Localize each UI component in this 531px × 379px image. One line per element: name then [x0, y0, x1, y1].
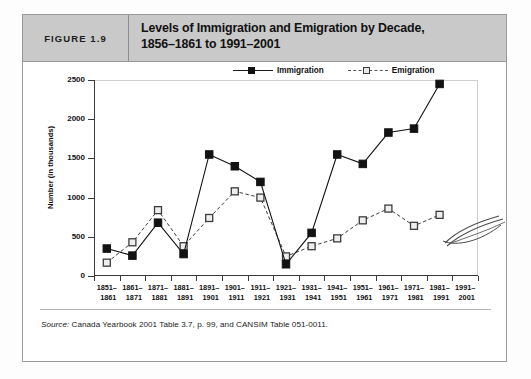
figure-number: FIGURE 1.9	[23, 15, 129, 61]
data-point-marker	[282, 260, 290, 268]
data-point-marker	[103, 245, 111, 253]
series-line	[107, 84, 440, 264]
data-point-marker	[410, 125, 418, 133]
data-point-marker	[206, 214, 213, 221]
data-point-marker	[155, 207, 162, 214]
figure-title: Levels of Immigration and Emigration by …	[129, 15, 506, 61]
source-text: Canada Yearbook 2001 Table 3.7, p. 99, a…	[69, 320, 328, 329]
data-point-marker	[385, 205, 392, 212]
data-point-marker	[103, 259, 110, 266]
data-point-marker	[257, 178, 265, 186]
source-prefix: Source:	[41, 320, 69, 329]
data-point-marker	[308, 229, 316, 237]
data-point-marker	[308, 243, 315, 250]
data-point-marker	[436, 80, 444, 88]
series-immigration	[103, 80, 443, 268]
data-point-marker	[231, 162, 239, 170]
data-point-marker	[154, 219, 162, 227]
source-divider	[40, 309, 491, 310]
pen-stroke-artifact	[437, 213, 507, 253]
figure-container: FIGURE 1.9 Levels of Immigration and Emi…	[22, 14, 507, 362]
data-point-marker	[257, 194, 264, 201]
data-point-marker	[129, 239, 136, 246]
data-point-marker	[359, 217, 366, 224]
data-point-marker	[334, 235, 341, 242]
series-canvas	[37, 68, 492, 303]
data-point-marker	[411, 222, 418, 229]
line-chart: Immigration Emigration Number (in thousa…	[37, 68, 492, 303]
figure-header: FIGURE 1.9 Levels of Immigration and Emi…	[23, 15, 506, 62]
figure-body: Immigration Emigration Number (in thousa…	[23, 62, 506, 363]
data-point-marker	[205, 151, 213, 159]
data-point-marker	[359, 160, 367, 168]
figure-title-line-2: 1856–1861 to 1991–2001	[141, 37, 496, 53]
data-point-marker	[180, 250, 188, 258]
data-point-marker	[333, 151, 341, 159]
figure-title-line-1: Levels of Immigration and Emigration by …	[141, 21, 496, 37]
data-point-marker	[231, 188, 238, 195]
series-line	[107, 191, 440, 262]
source-note: Source: Canada Yearbook 2001 Table 3.7, …	[41, 320, 328, 329]
data-point-marker	[385, 129, 393, 137]
figure-screenshot: FIGURE 1.9 Levels of Immigration and Emi…	[0, 0, 531, 379]
data-point-marker	[129, 252, 137, 260]
